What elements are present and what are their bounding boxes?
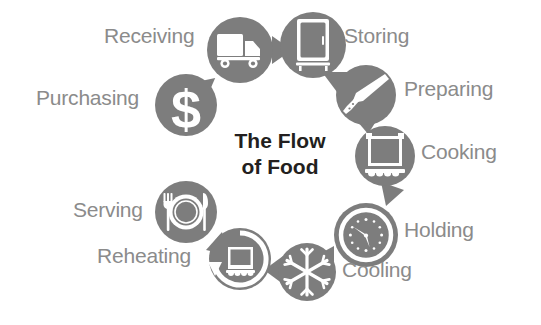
svg-text:$: $ [171,79,201,139]
stage-node-receiving[interactable] [207,17,273,83]
stage-node-cooling[interactable] [278,243,336,301]
flow-of-food-diagram: $ [0,0,541,325]
stage-label-receiving: Receiving [104,25,194,46]
stage-label-purchasing: Purchasing [36,87,139,108]
stage-label-cooking: Cooking [421,141,497,162]
stage-node-purchasing[interactable]: $ [155,74,217,139]
title-line-1: The Flow [222,128,338,154]
title-line-2: of Food [222,154,338,180]
stage-node-preparing[interactable] [336,65,396,125]
dollar-sign-icon: $ [171,79,201,139]
stage-node-cooking[interactable] [355,126,415,186]
stage-label-reheating: Reheating [97,245,191,266]
diagram-center-title: The Flow of Food [222,128,338,181]
stage-label-serving: Serving [73,199,143,220]
stage-label-cooling: Cooling [342,259,412,280]
refrigerator-icon [296,19,330,71]
stage-node-serving[interactable] [155,181,217,243]
stage-label-storing: Storing [344,25,409,46]
stage-label-holding: Holding [404,219,474,240]
clock-icon [341,210,391,260]
stage-label-preparing: Preparing [404,78,493,99]
stage-node-storing[interactable] [280,12,346,78]
